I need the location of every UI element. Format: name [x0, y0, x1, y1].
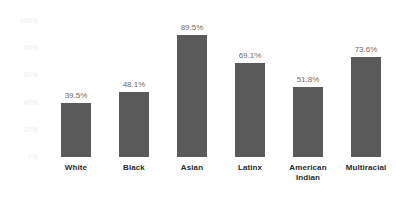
bar-chart: 100% 80% 60% 40% 20% 0% 39.5% White 48.1…: [0, 0, 396, 200]
bar-group: 89.5% Asian: [163, 0, 221, 200]
plot-area: 39.5% White 48.1% Black 89.5% Asian 69.1…: [0, 0, 396, 200]
bar-group: 51.8% AmericanIndian: [279, 0, 337, 200]
bar-rect[interactable]: [119, 92, 149, 157]
bar-rect[interactable]: [235, 63, 265, 157]
bar-group: 48.1% Black: [105, 0, 163, 200]
x-axis-category-label-line: Multiracial: [331, 163, 396, 173]
bar-value-label: 89.5%: [163, 23, 221, 32]
bar-value-label: 39.5%: [47, 91, 105, 100]
bar-value-label: 51.8%: [279, 75, 337, 84]
bar-value-label: 48.1%: [105, 80, 163, 89]
bar-group: 39.5% White: [47, 0, 105, 200]
x-axis-category-label-line: Indian: [273, 173, 343, 183]
bar-rect[interactable]: [351, 57, 381, 157]
x-axis-category-label: Multiracial: [331, 163, 396, 173]
bar-value-label: 73.6%: [337, 45, 395, 54]
bar-group: 73.6% Multiracial: [337, 0, 395, 200]
bar-rect[interactable]: [293, 87, 323, 157]
bar-rect[interactable]: [177, 35, 207, 157]
bar-group: 69.1% Latinx: [221, 0, 279, 200]
bar-rect[interactable]: [61, 103, 91, 157]
bar-value-label: 69.1%: [221, 51, 279, 60]
